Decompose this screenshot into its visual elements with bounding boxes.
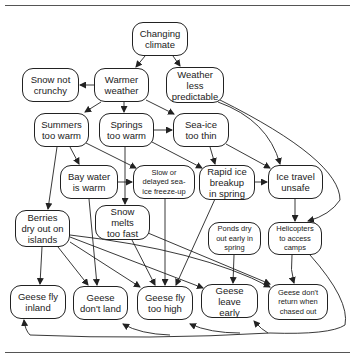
edge-berries-toohigh	[70, 242, 140, 287]
edge-helicopters-dontreturn	[291, 255, 294, 283]
node-geese-dont-return: Geese don't return when chased out	[268, 284, 328, 320]
node-weather-less-predictable: Weather less predictable	[166, 67, 224, 103]
edge-ponds-leave	[233, 255, 234, 283]
node-snow-melts-too-fast: Snow melts too fast	[95, 205, 150, 240]
edge-seaice-rapid	[210, 147, 215, 164]
node-geese-dont-land: Geese don't land	[73, 286, 128, 320]
edge-summers-berries	[48, 147, 57, 209]
node-ice-travel-unsafe: Ice travel unsafe	[268, 165, 323, 199]
node-helicopters: Helicopters to access camps	[268, 222, 322, 255]
edge-helicopters-dontland	[123, 324, 170, 335]
node-warmer-weather: Warmer weather	[94, 68, 149, 102]
node-springs-too-warm: Springs too warm	[99, 113, 154, 147]
node-changing-climate: Changing climate	[132, 22, 188, 56]
node-slow-freeze-up: Slow or delayed sea- ice freeze-up	[133, 165, 195, 199]
node-berries-dry-out: Berries dry out on islands	[15, 210, 70, 247]
edge-berries-dontland	[58, 247, 88, 285]
causal-diagram: Changing climate Snow not crunchy Warmer…	[0, 0, 358, 356]
node-geese-leave-early: Geese leave early	[201, 284, 258, 318]
node-bay-water-is-warm: Bay water is warm	[60, 165, 118, 199]
node-summers-too-warm: Summers too warm	[34, 113, 89, 147]
node-geese-fly-too-high: Geese fly too high	[137, 286, 193, 320]
edge-changing-predictable	[173, 56, 180, 66]
edge-helicopters-leave	[254, 321, 268, 333]
edge-berries-inland	[40, 247, 42, 284]
node-sea-ice-too-thin: Sea-ice too thin	[173, 113, 229, 147]
edge-changing-warmer	[136, 56, 145, 67]
edge-predictable-helicopters	[220, 100, 340, 221]
node-ponds-dry-out: Ponds dry out early in spring	[208, 222, 261, 255]
edge-warmer-summers	[85, 102, 101, 112]
node-snow-not-crunchy: Snow not crunchy	[22, 68, 79, 102]
edge-warmer-seaice	[146, 100, 174, 114]
node-geese-fly-inland: Geese fly inland	[10, 285, 66, 319]
node-rapid-ice-breakup: Rapid ice breakup in spring	[199, 165, 255, 200]
edge-helicopters-toohigh	[190, 324, 240, 333]
edge-summers-bay	[70, 147, 79, 164]
